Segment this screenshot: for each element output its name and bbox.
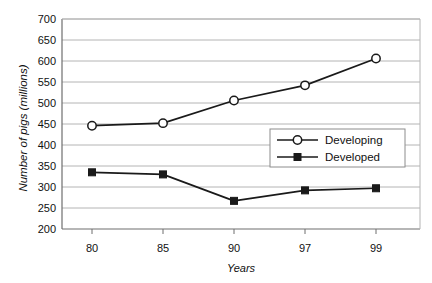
gridlines	[62, 19, 420, 208]
chart-legend: DevelopingDeveloped	[270, 129, 405, 167]
plot-area: DevelopingDeveloped	[0, 0, 432, 283]
x-axis-ticks	[92, 229, 376, 234]
line-chart: Number of pigs (millions) 700 650 600 55…	[0, 0, 432, 283]
legend-entry-label: Developed	[325, 151, 380, 163]
legend-entry-label: Developing	[325, 134, 383, 146]
